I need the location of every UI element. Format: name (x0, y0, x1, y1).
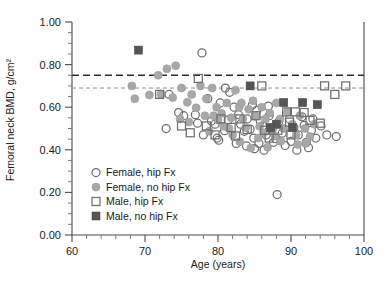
point-female-no-hip-fx (252, 112, 260, 120)
point-female-no-hip-fx (237, 99, 245, 107)
point-female-no-hip-fx (227, 114, 235, 122)
y-axis-title: Femoral neck BMD, g/cm² (4, 59, 16, 181)
chart-figure: 0.000.200.400.600.801.0060708090100 Fema… (0, 0, 385, 286)
point-female-no-hip-fx (145, 91, 153, 99)
legend-marker-male-no-hip-fx (92, 212, 100, 220)
point-male-no-hip-fx (288, 123, 296, 131)
y-tick-label: 0.80 (40, 59, 61, 71)
point-female-no-hip-fx (232, 86, 240, 94)
point-female-no-hip-fx (163, 65, 171, 73)
point-female-no-hip-fx (208, 84, 216, 92)
point-female-no-hip-fx (223, 99, 231, 107)
point-female-no-hip-fx (202, 95, 210, 103)
x-axis-title: Age (years) (191, 258, 245, 270)
point-female-no-hip-fx (249, 97, 257, 105)
point-female-no-hip-fx (178, 84, 186, 92)
x-tick-label: 90 (285, 245, 297, 257)
point-female-no-hip-fx (292, 131, 300, 139)
point-female-no-hip-fx (188, 90, 196, 98)
point-female-no-hip-fx (201, 112, 209, 120)
scatter-plot: 0.000.200.400.600.801.0060708090100 Fema… (0, 0, 385, 286)
point-female-no-hip-fx (247, 144, 255, 152)
point-male-no-hip-fx (134, 46, 142, 54)
point-female-no-hip-fx (301, 125, 309, 133)
legend-label-male-no-hip-fx: Male, no hip Fx (106, 210, 179, 222)
legend-item-female-no-hip-fx[interactable]: Female, no hip Fx (92, 181, 191, 193)
point-female-no-hip-fx (302, 139, 310, 147)
y-tick-label: 0.00 (40, 229, 61, 241)
point-male-no-hip-fx (280, 99, 288, 107)
x-tick-label: 60 (66, 245, 78, 257)
x-tick-label: 80 (212, 245, 224, 257)
point-male-no-hip-fx (246, 82, 254, 90)
point-female-no-hip-fx (131, 95, 139, 103)
point-female-no-hip-fx (196, 82, 204, 90)
point-female-no-hip-fx (169, 94, 177, 102)
point-female-no-hip-fx (264, 143, 272, 151)
x-tick-label: 70 (139, 245, 151, 257)
point-female-no-hip-fx (271, 132, 279, 140)
legend-marker-female-no-hip-fx (92, 183, 100, 191)
point-male-no-hip-fx (267, 123, 275, 131)
point-female-no-hip-fx (239, 115, 247, 123)
point-female-no-hip-fx (258, 103, 266, 111)
y-tick-label: 1.00 (40, 16, 61, 28)
point-female-no-hip-fx (266, 109, 274, 117)
y-tick-label: 0.20 (40, 186, 61, 198)
y-tick-label: 0.60 (40, 101, 61, 113)
point-female-no-hip-fx (172, 62, 180, 70)
legend-label-female-no-hip-fx: Female, no hip Fx (106, 181, 191, 193)
point-female-no-hip-fx (128, 82, 136, 90)
point-male-no-hip-fx (313, 101, 321, 109)
y-tick-label: 0.40 (40, 144, 61, 156)
point-female-no-hip-fx (154, 71, 162, 79)
point-female-no-hip-fx (183, 98, 191, 106)
point-male-no-hip-fx (299, 99, 307, 107)
legend-label-male-hip-fx: Male, hip Fx (106, 195, 164, 207)
legend-label-female-hip-fx: Female, hip Fx (106, 166, 176, 178)
x-tick-label: 100 (355, 245, 373, 257)
point-female-no-hip-fx (192, 104, 200, 112)
point-female-no-hip-fx (272, 99, 280, 107)
point-female-no-hip-fx (306, 133, 314, 141)
point-female-no-hip-fx (294, 140, 302, 148)
